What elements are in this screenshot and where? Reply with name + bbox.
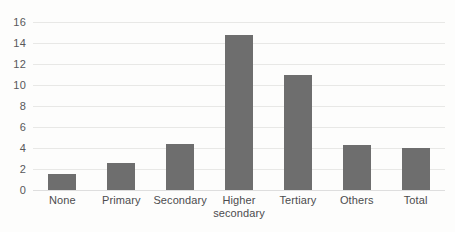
bar-slot: [386, 22, 445, 190]
bar-slot: [210, 22, 269, 190]
x-axis-tick: Total: [386, 194, 445, 220]
y-axis-tick-label: 4: [20, 142, 26, 154]
bar: [107, 163, 135, 190]
y-axis-tick-label: 12: [13, 58, 26, 70]
x-axis-tick: None: [33, 194, 92, 220]
bar: [343, 145, 371, 190]
x-axis: NonePrimarySecondaryHighersecondaryTerti…: [33, 194, 445, 220]
bar-slot: [92, 22, 151, 190]
y-axis: 1614121086420: [0, 22, 30, 190]
x-axis-tick: Primary: [92, 194, 151, 220]
x-axis-tick-label-line: Total: [404, 194, 428, 206]
x-axis-tick-label-line: Others: [340, 194, 374, 206]
bar-series: [33, 22, 445, 190]
x-axis-tick: Secondary: [151, 194, 210, 220]
y-axis-tick-label: 0: [20, 184, 26, 196]
x-axis-tick-label: Highersecondary: [210, 194, 269, 220]
x-axis-tick-label: Others: [327, 194, 386, 207]
bar: [284, 75, 312, 191]
bar: [402, 148, 430, 190]
x-axis-tick-label: Total: [386, 194, 445, 207]
bar: [48, 174, 76, 190]
x-axis-tick-label: Secondary: [151, 194, 210, 207]
bar-chart-figure: 1614121086420 NonePrimarySecondaryHigher…: [0, 0, 455, 232]
bar-slot: [327, 22, 386, 190]
y-axis-tick-label: 16: [13, 16, 26, 28]
y-axis-tick-label: 10: [13, 79, 26, 91]
x-axis-tick: Others: [327, 194, 386, 220]
x-axis-tick-label: Primary: [92, 194, 151, 207]
y-axis-tick-label: 8: [20, 100, 26, 112]
plot-area: [33, 22, 445, 190]
x-axis-tick: Highersecondary: [210, 194, 269, 220]
bar-slot: [151, 22, 210, 190]
x-axis-tick-label-line: Tertiary: [279, 194, 316, 206]
gridline: [33, 190, 445, 191]
x-axis-tick-label-line: secondary: [210, 207, 269, 220]
x-axis-tick-label-line: Secondary: [153, 194, 207, 206]
x-axis-tick: Tertiary: [268, 194, 327, 220]
x-axis-tick-label-line: Higher: [223, 194, 256, 206]
x-axis-tick-label-line: None: [49, 194, 76, 206]
bar-slot: [268, 22, 327, 190]
bar: [166, 144, 194, 190]
x-axis-tick-label: None: [33, 194, 92, 207]
x-axis-tick-label-line: Primary: [102, 194, 141, 206]
y-axis-tick-label: 2: [20, 163, 26, 175]
y-axis-tick-label: 14: [13, 37, 26, 49]
x-axis-tick-label: Tertiary: [268, 194, 327, 207]
bar-slot: [33, 22, 92, 190]
bar: [225, 35, 253, 190]
y-axis-tick-label: 6: [20, 121, 26, 133]
